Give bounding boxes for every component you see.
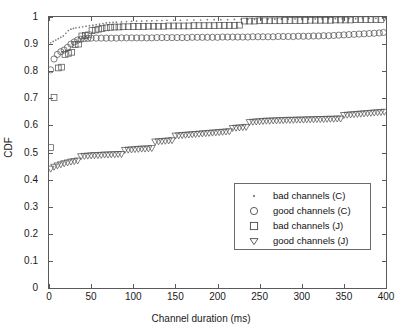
tick-mark <box>133 284 134 288</box>
data-point <box>65 32 67 34</box>
tick-mark <box>382 207 386 208</box>
tick-mark <box>49 125 53 126</box>
data-point <box>141 20 143 22</box>
y-tick-label: 0.1 <box>4 255 38 266</box>
data-point <box>234 19 236 21</box>
data-point <box>335 18 337 20</box>
data-point <box>307 117 314 123</box>
data-point <box>294 18 296 20</box>
data-point <box>109 22 111 24</box>
square-icon <box>235 220 273 232</box>
data-point <box>200 19 202 21</box>
data-point <box>320 117 327 123</box>
data-point <box>375 18 377 20</box>
data-point <box>112 24 118 30</box>
x-axis-title: Channel duration (ms) <box>0 313 402 324</box>
tick-mark <box>91 284 92 288</box>
triangle-down-icon <box>235 235 273 247</box>
tick-mark <box>382 288 386 289</box>
data-point <box>161 20 163 22</box>
data-point <box>62 35 64 37</box>
x-tick-label: 400 <box>366 291 402 302</box>
dot-icon <box>235 190 273 202</box>
tick-mark <box>49 71 53 72</box>
tick-mark <box>49 44 53 45</box>
data-point <box>68 30 70 32</box>
data-point <box>60 36 62 38</box>
tick-mark <box>49 234 53 235</box>
x-tick-label: 150 <box>155 291 195 302</box>
data-point <box>340 113 347 119</box>
data-point <box>121 21 123 23</box>
data-point <box>156 20 158 22</box>
tick-mark <box>386 17 387 21</box>
data-point <box>297 117 304 123</box>
x-tick-label: 0 <box>29 291 69 302</box>
data-point <box>112 22 114 24</box>
tick-mark <box>49 284 50 288</box>
data-point <box>111 152 118 158</box>
data-point <box>273 118 280 124</box>
y-tick-label: 0.8 <box>4 65 38 76</box>
data-point <box>280 118 287 124</box>
legend-label: bad channels (J) <box>273 220 343 231</box>
data-point <box>95 24 97 26</box>
tick-mark <box>302 284 303 288</box>
y-axis-title: CDF <box>3 118 14 178</box>
tick-mark <box>175 17 176 21</box>
data-point <box>213 19 215 21</box>
tick-mark <box>382 125 386 126</box>
tick-mark <box>382 71 386 72</box>
data-point <box>105 152 112 158</box>
x-tick-label: 50 <box>71 291 111 302</box>
x-tick-label: 350 <box>324 291 364 302</box>
data-point <box>73 28 75 30</box>
data-point <box>314 18 316 20</box>
tick-mark <box>382 98 386 99</box>
tick-mark <box>49 17 50 21</box>
data-point <box>193 19 195 21</box>
data-point <box>207 19 209 21</box>
data-point <box>131 20 133 22</box>
circle-icon <box>235 205 273 217</box>
data-point <box>99 23 101 25</box>
y-tick-label: 1 <box>4 11 38 22</box>
x-tick-label: 300 <box>282 291 322 302</box>
data-point <box>186 19 188 21</box>
series-good-channels-c <box>49 29 386 73</box>
tick-mark <box>49 98 53 99</box>
x-tick-label: 250 <box>240 291 280 302</box>
tick-mark <box>382 234 386 235</box>
data-point <box>136 20 138 22</box>
data-point <box>300 117 307 123</box>
tick-mark <box>382 180 386 181</box>
data-point <box>78 26 80 28</box>
tick-mark <box>344 284 345 288</box>
tick-mark <box>218 17 219 21</box>
y-tick-label: 0.9 <box>4 38 38 49</box>
data-point <box>152 139 159 145</box>
data-point <box>94 153 101 159</box>
tick-mark <box>386 284 387 288</box>
data-point <box>380 29 386 35</box>
data-point <box>126 21 128 23</box>
data-point <box>55 39 57 41</box>
tick-mark <box>218 284 219 288</box>
legend-item-good-channels-j: good channels (J) <box>235 233 370 248</box>
legend-label: bad channels (C) <box>273 190 345 201</box>
tick-mark <box>260 17 261 21</box>
y-tick-label: 0.7 <box>4 92 38 103</box>
data-point <box>330 116 337 122</box>
x-tick-label: 200 <box>198 291 238 302</box>
data-point <box>180 19 182 21</box>
data-point <box>227 19 229 21</box>
tick-mark <box>49 180 53 181</box>
data-point <box>151 20 153 22</box>
data-point <box>317 117 324 123</box>
tick-mark <box>175 284 176 288</box>
tick-mark <box>382 44 386 45</box>
legend-label: good channels (J) <box>273 235 349 246</box>
data-point <box>70 28 72 30</box>
data-point <box>49 145 54 151</box>
data-point <box>166 19 168 21</box>
